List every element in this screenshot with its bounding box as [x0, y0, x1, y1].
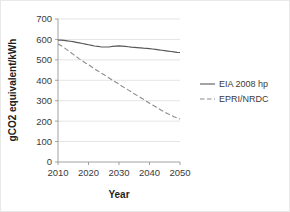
x-tick-label: 2010: [47, 167, 68, 178]
y-tick-label: 200: [36, 116, 52, 127]
y-tick-label: 300: [36, 95, 52, 106]
plot-area-background: [58, 19, 180, 162]
chart-figure: 700 600 500 400 300 200 100 0 2010 2020 …: [0, 0, 290, 212]
x-tick-label: 2050: [169, 167, 190, 178]
y-axis-ticks: [55, 19, 58, 162]
y-tick-labels: 700 600 500 400 300 200 100 0: [36, 13, 52, 167]
y-tick-label: 100: [36, 136, 52, 147]
y-tick-label: 0: [47, 156, 52, 167]
y-tick-label: 600: [36, 34, 52, 45]
y-tick-label: 700: [36, 13, 52, 24]
x-tick-label: 2020: [78, 167, 99, 178]
legend-label-eia-2008-hp: EIA 2008 hp: [219, 79, 268, 89]
legend-label-epri-nrdc: EPRI/NRDC: [219, 94, 269, 104]
x-axis-title: Year: [108, 189, 129, 200]
x-axis-ticks: [58, 162, 180, 165]
x-tick-label: 2030: [108, 167, 129, 178]
y-tick-label: 500: [36, 54, 52, 65]
legend: EIA 2008 hp EPRI/NRDC: [200, 79, 269, 104]
line-chart: 700 600 500 400 300 200 100 0 2010 2020 …: [0, 0, 290, 212]
x-tick-label: 2040: [139, 167, 160, 178]
y-axis-title: gCO2 equivalent/kWh: [7, 39, 18, 142]
x-tick-labels: 2010 2020 2030 2040 2050: [47, 167, 190, 178]
y-tick-label: 400: [36, 75, 52, 86]
